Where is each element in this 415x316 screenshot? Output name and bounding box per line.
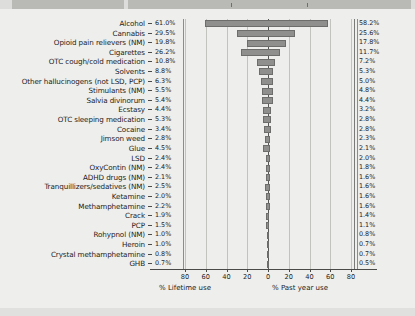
pastyear-value: 5.0% [359, 77, 393, 87]
plot-area [185, 19, 355, 269]
pastyear-value: 1.6% [359, 182, 393, 192]
category-tick [148, 177, 152, 178]
lifetime-value: 2.1% [155, 173, 183, 183]
bar-ghb [267, 261, 269, 268]
category-tick [148, 196, 152, 197]
category-tick [148, 215, 152, 216]
gridline-20 [247, 19, 248, 269]
lifetime-value: 1.0% [155, 230, 183, 240]
pastyear-value: 17.8% [359, 38, 393, 48]
category-label: Crack [0, 211, 152, 221]
value-column-divider-left [183, 19, 184, 269]
category-tick [148, 234, 152, 235]
category-label: Opioid pain relievers (NM) [0, 38, 152, 48]
banner-block-left [12, 0, 124, 9]
category-tick [148, 119, 152, 120]
pastyear-value: 0.7% [359, 250, 393, 260]
chart-page: AlcoholCannabisOpioid pain relievers (NM… [0, 0, 415, 316]
pastyear-value: 2.8% [359, 115, 393, 125]
gridline-40 [227, 19, 228, 269]
x-tick-label: 60 [320, 273, 340, 281]
category-label: OTC sleeping medication [0, 115, 152, 125]
lifetime-value: 2.0% [155, 192, 183, 202]
category-tick [148, 186, 152, 187]
lifetime-value: 1.5% [155, 221, 183, 231]
chart-sheet: AlcoholCannabisOpioid pain relievers (NM… [0, 9, 415, 308]
bar-lsd [266, 155, 271, 162]
pastyear-value: 1.8% [359, 163, 393, 173]
gridline-60 [206, 19, 207, 269]
category-label: OxyContin (NM) [0, 163, 152, 173]
x-tick [330, 269, 331, 272]
category-label: Tranquillizers/sedatives (NM) [0, 182, 152, 192]
category-tick [148, 109, 152, 110]
banner-tick-1 [231, 3, 232, 7]
x-axis-extension-right [355, 269, 377, 270]
pastyear-value: 1.6% [359, 173, 393, 183]
pastyear-value: 2.8% [359, 125, 393, 135]
category-label: ADHD drugs (NM) [0, 173, 152, 183]
category-tick [148, 81, 152, 82]
lifetime-value: 0.7% [155, 259, 183, 269]
category-label: GHB [0, 259, 152, 269]
x-tick [227, 269, 228, 272]
category-label: Cannabis [0, 29, 152, 39]
bar-ecstasy [263, 107, 271, 114]
pastyear-value: 11.7% [359, 48, 393, 58]
pastyear-value: 7.2% [359, 57, 393, 67]
banner-block-right [128, 0, 411, 9]
category-label: Other hallucinogens (not LSD, PCP) [0, 77, 152, 87]
bar-crack [266, 213, 269, 220]
pastyear-value: 2.3% [359, 134, 393, 144]
pastyear-value: 2.0% [359, 154, 393, 164]
lifetime-value: 1.9% [155, 211, 183, 221]
bar-methamphetamine [266, 203, 270, 210]
lifetime-value: 2.5% [155, 182, 183, 192]
lifetime-value: 2.8% [155, 134, 183, 144]
bar-oxycontin-nm [266, 165, 270, 172]
bar-otc-cough-cold-medication [257, 59, 276, 66]
category-tick [148, 129, 152, 130]
x-axis-extension-left [150, 269, 186, 270]
lifetime-value: 2.2% [155, 202, 183, 212]
pastyear-value: 25.6% [359, 29, 393, 39]
category-tick [148, 225, 152, 226]
category-label: Ecstasy [0, 105, 152, 115]
lifetime-value: 2.4% [155, 163, 183, 173]
lifetime-value: 0.8% [155, 250, 183, 260]
gridline-40 [310, 19, 311, 269]
lifetime-value: 29.5% [155, 29, 183, 39]
bar-alcohol [205, 20, 329, 27]
lifetime-value: 8.8% [155, 67, 183, 77]
pastyear-value: 0.8% [359, 230, 393, 240]
pastyear-value: 3.2% [359, 105, 393, 115]
bar-crystal-methamphetamine [267, 251, 269, 258]
pastyear-value: 1.6% [359, 202, 393, 212]
lifetime-value: 5.5% [155, 86, 183, 96]
page-top-banner [0, 0, 415, 9]
bar-jimson-weed [265, 136, 270, 143]
pastyear-value: 5.3% [359, 67, 393, 77]
pastyear-value: 1.6% [359, 192, 393, 202]
pastyear-value-column: 58.2%25.6%17.8%11.7%7.2%5.3%5.0%4.8%4.4%… [359, 9, 393, 269]
category-label: PCP [0, 221, 152, 231]
value-column-divider-right [357, 19, 358, 269]
category-tick [148, 23, 152, 24]
tornado-chart: AlcoholCannabisOpioid pain relievers (NM… [0, 9, 415, 308]
category-tick [148, 254, 152, 255]
plot-frame-right [354, 19, 355, 269]
x-axis-title-pastyear: % Past year use [240, 284, 360, 292]
x-tick-label: 80 [341, 273, 361, 281]
bar-stimulants-nm [262, 88, 273, 95]
category-tick [148, 148, 152, 149]
gridline-60 [330, 19, 331, 269]
bar-opioid-pain-relievers-nm [247, 40, 286, 47]
pastyear-value: 0.5% [359, 259, 393, 269]
lifetime-value: 19.8% [155, 38, 183, 48]
category-tick [148, 138, 152, 139]
bar-cocaine [264, 126, 270, 133]
gridline-80 [351, 19, 352, 269]
bar-tranquillizers-sedatives-nm [265, 184, 269, 191]
x-tick-label: 40 [217, 273, 237, 281]
pastyear-value: 1.1% [359, 221, 393, 231]
